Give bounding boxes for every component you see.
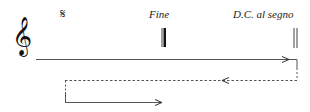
path-step-3 bbox=[65, 92, 162, 106]
path-step-2 bbox=[65, 78, 297, 93]
roadmap-diagram: 𝄞 𝄋 Fine D.C. al segno bbox=[0, 0, 310, 112]
path-step-1 bbox=[36, 57, 297, 81]
double-barline bbox=[294, 28, 298, 48]
roadmap-lines bbox=[0, 0, 310, 112]
final-barline bbox=[162, 28, 167, 47]
